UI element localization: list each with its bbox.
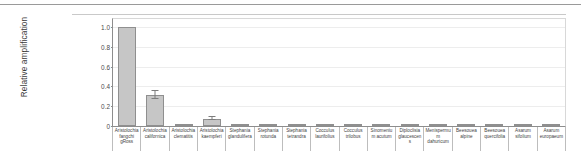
bar [401,124,419,126]
x-axis-label: Sinomenium acutum [368,128,395,139]
x-axis-label: Beesouea quercifolia [481,128,508,139]
bar [288,124,306,126]
x-axis-label-cell: Stephania glandulifera [226,127,254,151]
x-axis-label: Asarum europaeum [538,128,565,139]
bar-slot [452,19,480,126]
x-axis-label-cell: Aristolochia californica [141,127,169,151]
x-axis-label-cell: Asarum sifolium [509,127,537,151]
x-axis-label-cell: Beesouea quercifolia [481,127,509,151]
x-axis-label-cell: Aristolochia fangchi gRoss [112,127,141,151]
bar [146,95,164,126]
x-axis-label: Cocculus trilobus [340,128,367,139]
bar-slot [367,19,395,126]
bar-slot [480,19,508,126]
bar-slot [283,19,311,126]
y-tick-label: 0.4 [101,83,110,90]
x-axis-label-cell: Beesouea alpine [453,127,481,151]
x-axis-label: Stephania rotunda [255,128,282,139]
bar [429,124,447,126]
bar [485,124,503,126]
bar-slot [424,19,452,126]
error-bar-cap-top [208,116,215,117]
x-axis-label-table: Aristolochia fangchi gRossAristolochia c… [112,127,566,151]
bar-series [113,19,565,126]
bar [231,124,249,126]
x-axis-label: Beesouea alpine [453,128,480,139]
bar-slot [311,19,339,126]
bar [542,124,560,126]
x-axis-label: Aristolochia clematitis [170,128,197,139]
bar-slot [396,19,424,126]
bar [175,124,193,126]
bar-slot [226,19,254,126]
error-bar-cap-bottom [152,98,159,99]
bar [259,124,277,126]
y-tick-label: 0.2 [101,103,110,110]
bar-slot [509,19,537,126]
bar [118,27,136,126]
x-axis-label: Aristolochia fangchi gRoss [113,128,140,145]
bar-slot [198,19,226,126]
x-axis-label: Stephania tetrandra [283,128,310,139]
x-axis-label-cell: Menispermum dahuricum [424,127,452,151]
x-axis-label: Stephania glandulifera [226,128,253,139]
y-tick-label: 0 [106,123,110,130]
y-tick-label: 0.6 [101,63,110,70]
x-axis-label: Cocculus laurifolius [311,128,338,139]
y-axis-title: Relative amplification [19,0,29,117]
x-axis-label-cell: Cocculus trilobus [340,127,368,151]
bar-slot [339,19,367,126]
bar [514,124,532,126]
figure-panel: Relative amplification 00.20.40.60.81.0 … [0,0,581,155]
bar [457,124,475,126]
y-tick-label: 1.0 [101,23,110,30]
y-tick-label: 0.8 [101,43,110,50]
bar-slot [170,19,198,126]
x-axis-label-cell: Cocculus laurifolius [311,127,339,151]
x-axis-label-cell: Stephania rotunda [255,127,283,151]
x-axis-label: Aristolochia kaempferi [198,128,225,139]
error-bar-cap-bottom [208,119,215,120]
x-axis-label-cell: Sinomenium acutum [368,127,396,151]
bar-slot [141,19,169,126]
bar-slot [537,19,565,126]
x-axis-label-cell: Stephania tetrandra [283,127,311,151]
bar [344,124,362,126]
x-axis-label: Aristolochia californica [141,128,168,139]
bar-slot [254,19,282,126]
bar-slot [113,19,141,126]
x-axis-label-cell: Aristolochia kaempferi [198,127,226,151]
x-axis-label-cell: Aristolochia clematitis [170,127,198,151]
x-axis-label: Diploclisia glaucescens [396,128,423,145]
x-axis-label-cell: Asarum europaeum [538,127,566,151]
error-bar-cap-top [152,90,159,91]
x-axis-label-cell: Diploclisia glaucescens [396,127,424,151]
plot-area: 00.20.40.60.81.0 [112,18,566,127]
figure-top-rule [72,14,566,15]
bar [316,124,334,126]
bar [372,124,390,126]
x-axis-label: Asarum sifolium [509,128,536,139]
page-top-rule [0,4,581,5]
x-axis-label: Menispermum dahuricum [424,128,451,145]
